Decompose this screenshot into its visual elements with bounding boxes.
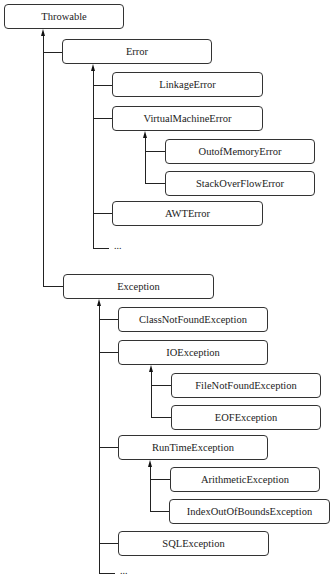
node-exception: Exception: [63, 274, 214, 299]
node-out-of-memory-error: OutofMemoryError: [165, 139, 315, 164]
node-file-not-found-exception: FileNotFoundException: [171, 373, 321, 398]
sql-exception-connector: [99, 543, 118, 544]
class-not-found-connector: [99, 319, 118, 320]
throwable-arrow-icon: [41, 29, 45, 36]
exception-connector: [43, 286, 63, 287]
node-io-exception: IOException: [118, 340, 268, 365]
node-sql-exception: SQLException: [118, 531, 269, 556]
io-exception-trunk-line: [151, 370, 152, 418]
io-exception-connector: [99, 352, 118, 353]
error-more-ellipsis: ...: [114, 241, 122, 251]
exception-trunk-line: [99, 304, 100, 573]
node-virtual-machine-error: VirtualMachineError: [112, 106, 263, 131]
throwable-trunk-line: [43, 34, 44, 287]
node-stack-overflow-error: StackOverFlowError: [165, 171, 315, 196]
index-out-of-bounds-connector: [150, 511, 169, 512]
error-more-connector: [93, 248, 109, 249]
node-linkage-error: LinkageError: [112, 72, 263, 97]
exception-arrow-icon: [97, 299, 101, 306]
arithmetic-exception-connector: [150, 479, 170, 480]
vm-error-arrow-icon: [143, 131, 147, 138]
stackoverflow-error-connector: [145, 183, 165, 184]
runtime-exception-arrow-icon: [148, 460, 152, 467]
awt-error-connector: [93, 213, 112, 214]
node-runtime-exception: RunTimeException: [118, 435, 268, 460]
runtime-exception-connector: [99, 447, 118, 448]
exception-more-connector: [99, 573, 115, 574]
node-error: Error: [62, 39, 212, 64]
node-class-not-found-exception: ClassNotFoundException: [118, 307, 268, 332]
node-awt-error: AWTError: [112, 201, 263, 226]
linkage-error-connector: [93, 85, 112, 86]
oom-error-connector: [145, 151, 165, 152]
node-throwable: Throwable: [4, 4, 124, 29]
node-index-out-of-bounds-exception: IndexOutOfBoundsException: [169, 499, 330, 524]
io-exception-arrow-icon: [149, 365, 153, 372]
runtime-exception-trunk-line: [150, 465, 151, 512]
error-trunk-line: [93, 69, 94, 249]
error-connector: [43, 52, 62, 53]
exception-more-ellipsis: ...: [120, 566, 128, 576]
vm-error-trunk-line: [145, 136, 146, 184]
vm-error-connector: [93, 118, 112, 119]
node-eof-exception: EOFException: [171, 405, 321, 430]
eof-exception-connector: [151, 417, 171, 418]
error-arrow-icon: [91, 64, 95, 71]
file-not-found-connector: [151, 385, 171, 386]
node-arithmetic-exception: ArithmeticException: [170, 467, 320, 492]
